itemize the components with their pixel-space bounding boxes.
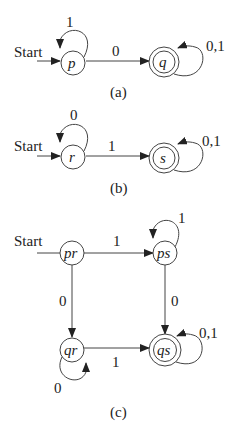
state-qr-label: qr — [64, 342, 78, 358]
label-p-q: 0 — [112, 43, 120, 59]
state-p-label: p — [67, 55, 76, 71]
label-r-s: 1 — [108, 138, 116, 154]
label-pr-qr: 0 — [59, 293, 67, 309]
label-r-self: 0 — [70, 107, 78, 123]
state-q-label: q — [159, 54, 167, 70]
label-ps-qs: 0 — [171, 293, 179, 309]
caption-b: (b) — [110, 180, 128, 197]
label-qr-qs: 1 — [112, 354, 120, 370]
diagram-b: 0 Start r 1 s 0,1 (b) — [14, 107, 221, 197]
label-qs-self: 0,1 — [199, 325, 218, 341]
label-pr-ps: 1 — [113, 233, 121, 249]
diagram-c: Start pr 1 1 ps 0 0 qr 0 1 qs 0,1 (c) — [14, 210, 218, 421]
label-qr-self: 0 — [54, 380, 62, 396]
label-q-self: 0,1 — [206, 38, 225, 54]
label-p-self: 1 — [66, 14, 74, 30]
state-ps-label: ps — [156, 245, 171, 261]
start-label-a: Start — [14, 44, 43, 60]
caption-c: (c) — [110, 404, 127, 421]
state-pr-label: pr — [63, 245, 78, 261]
diagram-a: Start 1 p 0 q 0,1 (a) — [14, 14, 225, 101]
automata-diagram: Start 1 p 0 q 0,1 (a) 0 Start r 1 s 0,1 … — [0, 0, 237, 429]
start-label-c: Start — [14, 233, 43, 249]
start-label-b: Start — [14, 138, 43, 154]
label-ps-self: 1 — [178, 210, 186, 226]
caption-a: (a) — [110, 84, 127, 101]
state-s-label: s — [160, 150, 166, 166]
state-qs-label: qs — [157, 342, 171, 358]
label-s-self: 0,1 — [202, 133, 221, 149]
state-r-label: r — [69, 149, 75, 165]
